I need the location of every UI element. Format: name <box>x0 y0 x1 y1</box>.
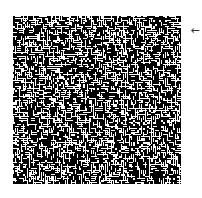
left-arrow-icon: ← <box>189 25 201 37</box>
noise-texture-image <box>13 16 181 184</box>
